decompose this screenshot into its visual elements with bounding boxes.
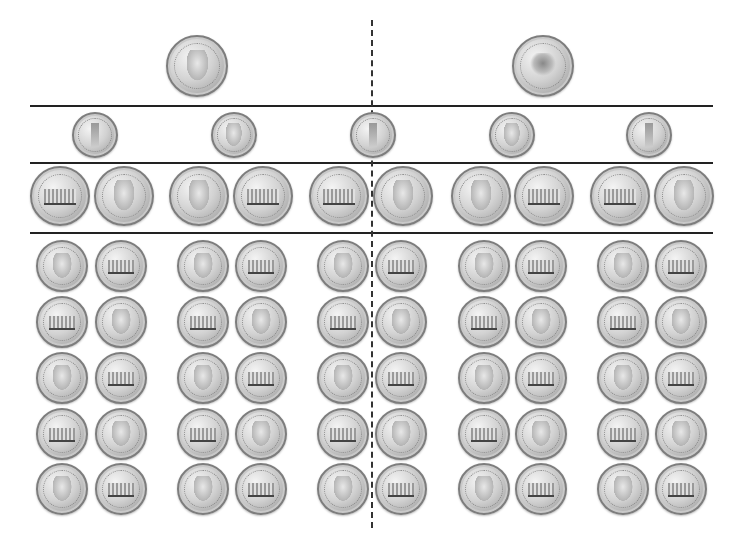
dime-tails-coin xyxy=(626,112,672,158)
building-icon xyxy=(388,483,415,497)
portrait-icon xyxy=(672,421,691,449)
penny-heads-coin xyxy=(655,408,707,460)
portrait-icon xyxy=(674,180,696,212)
penny-heads-coin xyxy=(317,352,369,404)
penny-tails-coin xyxy=(177,296,229,348)
portrait-icon xyxy=(194,365,213,393)
portrait-icon xyxy=(334,253,353,281)
portrait-icon xyxy=(112,421,131,449)
penny-heads-coin xyxy=(597,240,649,292)
building-icon xyxy=(330,428,357,442)
portrait-icon xyxy=(672,309,691,337)
penny-heads-coin xyxy=(177,463,229,515)
penny-heads-coin xyxy=(375,296,427,348)
portrait-icon xyxy=(614,365,633,393)
portrait-icon xyxy=(252,421,271,449)
portrait-icon xyxy=(252,309,271,337)
building-icon xyxy=(190,316,217,330)
building-icon xyxy=(44,189,75,204)
portrait-icon xyxy=(614,253,633,281)
portrait-icon xyxy=(504,123,521,147)
building-icon xyxy=(323,189,354,204)
penny-tails-coin xyxy=(515,352,567,404)
building-icon xyxy=(668,372,695,386)
center-dashed-divider xyxy=(371,20,373,528)
quarter-tails-coin xyxy=(512,35,574,97)
torch-icon xyxy=(369,123,377,147)
building-icon xyxy=(471,316,498,330)
penny-heads-coin xyxy=(655,296,707,348)
nickel-heads-coin xyxy=(654,166,714,226)
penny-heads-coin xyxy=(317,240,369,292)
portrait-icon xyxy=(187,50,210,84)
building-icon xyxy=(610,316,637,330)
portrait-icon xyxy=(393,180,415,212)
penny-tails-coin xyxy=(597,408,649,460)
penny-tails-coin xyxy=(655,463,707,515)
portrait-icon xyxy=(194,253,213,281)
building-icon xyxy=(528,372,555,386)
building-icon xyxy=(248,260,275,274)
building-icon xyxy=(528,260,555,274)
penny-tails-coin xyxy=(36,408,88,460)
portrait-icon xyxy=(392,421,411,449)
penny-tails-coin xyxy=(317,408,369,460)
nickel-heads-coin xyxy=(373,166,433,226)
building-icon xyxy=(604,189,635,204)
building-icon xyxy=(528,189,559,204)
portrait-icon xyxy=(614,476,633,504)
portrait-icon xyxy=(392,309,411,337)
nickel-tails-coin xyxy=(590,166,650,226)
penny-heads-coin xyxy=(375,408,427,460)
penny-tails-coin xyxy=(655,352,707,404)
portrait-icon xyxy=(112,309,131,337)
nickel-tails-coin xyxy=(514,166,574,226)
portrait-icon xyxy=(53,365,72,393)
portrait-icon xyxy=(226,123,243,147)
penny-tails-coin xyxy=(655,240,707,292)
dime-tails-coin xyxy=(350,112,396,158)
torch-icon xyxy=(91,123,99,147)
portrait-icon xyxy=(53,253,72,281)
dime-heads-coin xyxy=(211,112,257,158)
penny-tails-coin xyxy=(597,296,649,348)
penny-heads-coin xyxy=(177,352,229,404)
nickel-tails-coin xyxy=(30,166,90,226)
nickel-tails-coin xyxy=(309,166,369,226)
penny-tails-coin xyxy=(95,240,147,292)
penny-heads-coin xyxy=(235,408,287,460)
building-icon xyxy=(471,428,498,442)
penny-heads-coin xyxy=(36,463,88,515)
penny-heads-coin xyxy=(458,240,510,292)
penny-heads-coin xyxy=(235,296,287,348)
penny-tails-coin xyxy=(36,296,88,348)
penny-tails-coin xyxy=(177,408,229,460)
portrait-icon xyxy=(471,180,493,212)
portrait-icon xyxy=(194,476,213,504)
building-icon xyxy=(388,372,415,386)
building-icon xyxy=(247,189,278,204)
penny-tails-coin xyxy=(95,352,147,404)
penny-heads-coin xyxy=(95,408,147,460)
penny-tails-coin xyxy=(375,463,427,515)
eagle-icon xyxy=(530,53,556,76)
building-icon xyxy=(108,260,135,274)
penny-tails-coin xyxy=(95,463,147,515)
portrait-icon xyxy=(334,476,353,504)
portrait-icon xyxy=(114,180,136,212)
building-icon xyxy=(108,483,135,497)
penny-tails-coin xyxy=(235,240,287,292)
building-icon xyxy=(108,372,135,386)
portrait-icon xyxy=(475,476,494,504)
building-icon xyxy=(330,316,357,330)
penny-tails-coin xyxy=(458,408,510,460)
penny-tails-coin xyxy=(235,352,287,404)
penny-tails-coin xyxy=(515,240,567,292)
quarter-heads-coin xyxy=(166,35,228,97)
penny-tails-coin xyxy=(375,240,427,292)
building-icon xyxy=(528,483,555,497)
penny-heads-coin xyxy=(458,352,510,404)
building-icon xyxy=(388,260,415,274)
penny-tails-coin xyxy=(375,352,427,404)
torch-icon xyxy=(645,123,653,147)
